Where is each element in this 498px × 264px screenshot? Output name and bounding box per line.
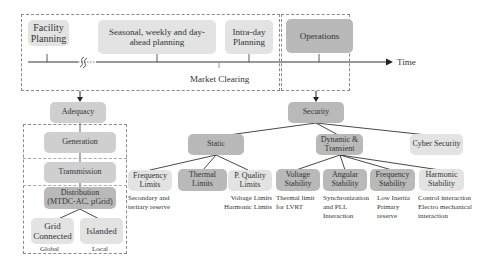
note-line: Voltage Limits (219, 194, 272, 203)
thermal-limits-label: Thermal Limits (178, 171, 227, 189)
harmonic-stability-label: Harmonic Stability (419, 171, 464, 189)
angular-stability-label: Angular Stability (323, 171, 367, 189)
voltage-stability-note: Thermal limit for LVRT (276, 194, 315, 212)
grid-connected-box: Grid Connected (31, 218, 74, 244)
note-line: interaction (418, 212, 472, 221)
voltage-stability-label: Voltage Stability (276, 171, 320, 189)
note-line: Interaction (323, 212, 369, 221)
note-line: tertiary reserve (128, 203, 170, 212)
distribution-box: Distribution (MTDC-AC, µGrid) (44, 187, 116, 209)
dynamic-transient-label: Dynamic & Transient (316, 136, 363, 154)
note-line: Thermal limit (276, 194, 315, 203)
market-clearing-label: Market Clearing (190, 74, 249, 84)
islanded-label: Islanded (86, 226, 117, 236)
frequency-stability-box: Frequency Stability (370, 169, 415, 191)
time-arrowhead-icon (386, 59, 393, 66)
time-axis-label: Time (397, 57, 416, 67)
islanded-box: Islanded (80, 218, 123, 244)
note-line: Primary (377, 203, 410, 212)
dynamic-transient-box: Dynamic & Transient (316, 134, 363, 155)
transmission-box: Transmission (44, 162, 116, 183)
note-line: for LVRT (276, 203, 315, 212)
static-label: Static (207, 140, 225, 149)
security-label: Security (303, 108, 330, 117)
operations-label: Operations (300, 31, 340, 41)
harmonic-stability-note: Control interaction Electro mechanical i… (418, 194, 472, 220)
pq-limits-label: P. Quality Limits (228, 172, 272, 190)
cyber-security-box: Cyber Security (410, 134, 463, 155)
transmission-label: Transmission (59, 168, 102, 177)
intra-day-planning-box: Intra-day Planning (225, 20, 273, 54)
note-line: Synchronization (323, 194, 369, 203)
operations-box: Operations (286, 19, 353, 53)
frequency-stability-note: Low Inertia Primary reserve (377, 194, 410, 220)
note-line: Electro mechanical (418, 203, 472, 212)
note-line: Low Inertia (377, 194, 410, 203)
static-box: Static (188, 134, 244, 155)
angular-stability-box: Angular Stability (323, 169, 367, 191)
level-divider (23, 158, 127, 159)
voltage-stability-box: Voltage Stability (276, 169, 320, 191)
distribution-label: Distribution (MTDC-AC, µGrid) (46, 189, 114, 207)
cyber-security-label: Cyber Security (412, 140, 460, 149)
seasonal-planning-label: Seasonal, weekly and day-ahead planning (108, 27, 206, 47)
thermal-limits-box: Thermal Limits (178, 169, 227, 191)
frequency-limits-box: Frequency Limits (128, 170, 172, 191)
facility-planning-label: Facility Planning (28, 22, 69, 44)
frequency-limits-label: Frequency Limits (128, 172, 172, 190)
local-scope-label: Local (92, 245, 108, 253)
adequacy-box: Adequacy (50, 102, 106, 123)
frequency-limits-note: Secondary and tertiary reserve (128, 194, 170, 212)
generation-label: Generation (62, 138, 98, 147)
harmonic-stability-box: Harmonic Stability (419, 169, 464, 191)
grid-connected-label: Grid Connected (31, 221, 74, 241)
pq-limits-box: P. Quality Limits (228, 170, 272, 191)
note-line: and PLL (323, 203, 369, 212)
note-line: Harmonic Limits (219, 203, 272, 212)
level-divider (23, 185, 127, 186)
facility-planning-box: Facility Planning (28, 20, 69, 46)
note-line: Control interaction (418, 194, 472, 203)
adequacy-label: Adequacy (62, 108, 94, 117)
angular-stability-note: Synchronization and PLL Interaction (323, 194, 369, 220)
frequency-stability-label: Frequency Stability (370, 171, 415, 189)
note-line: Secondary and (128, 194, 170, 203)
pq-limits-note: Voltage Limits Harmonic Limits (219, 194, 272, 212)
security-box: Security (288, 102, 344, 123)
seasonal-planning-box: Seasonal, weekly and day-ahead planning (98, 20, 216, 54)
global-scope-label: Global (40, 245, 59, 253)
note-line: reserve (377, 212, 410, 221)
generation-box: Generation (44, 132, 116, 153)
intra-day-planning-label: Intra-day Planning (229, 27, 269, 47)
